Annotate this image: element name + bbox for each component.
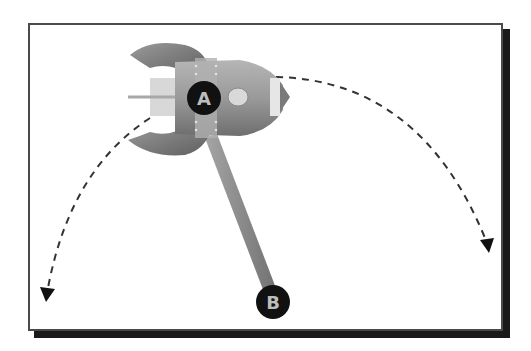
arrowhead-icon — [40, 287, 55, 302]
pendulum-rod — [205, 134, 279, 300]
point-a-label: A — [197, 88, 211, 109]
arrowhead-icon — [480, 238, 494, 253]
point-b-marker: B — [256, 285, 290, 319]
left-swing-arrow — [40, 118, 150, 302]
rocket-window — [228, 88, 248, 106]
nose-band — [270, 78, 280, 116]
nose-tip — [280, 82, 290, 112]
right-swing-arrow — [276, 77, 494, 253]
point-a-marker: A — [187, 81, 221, 115]
point-b-label: B — [266, 292, 280, 313]
diagram-canvas: A B — [0, 0, 531, 351]
